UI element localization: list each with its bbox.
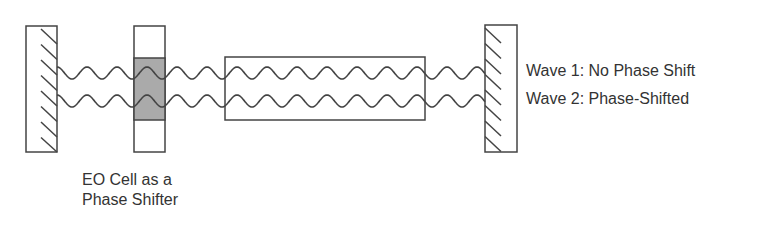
gain-medium-box: [225, 57, 425, 120]
left-mirror: [26, 26, 57, 152]
wave-2: [57, 95, 485, 107]
right-mirror: [485, 25, 517, 152]
wave-1: [57, 67, 485, 79]
eo-cell-label-line1: EO Cell as a: [82, 170, 178, 190]
eo-cell: [134, 26, 165, 152]
wave1-label: Wave 1: No Phase Shift: [526, 61, 695, 81]
eo-cell-label: EO Cell as a Phase Shifter: [82, 170, 178, 210]
waves: [57, 67, 485, 107]
eo-cell-label-line2: Phase Shifter: [82, 190, 178, 210]
gain-medium: [225, 57, 425, 120]
wave2-label: Wave 2: Phase-Shifted: [526, 89, 689, 109]
